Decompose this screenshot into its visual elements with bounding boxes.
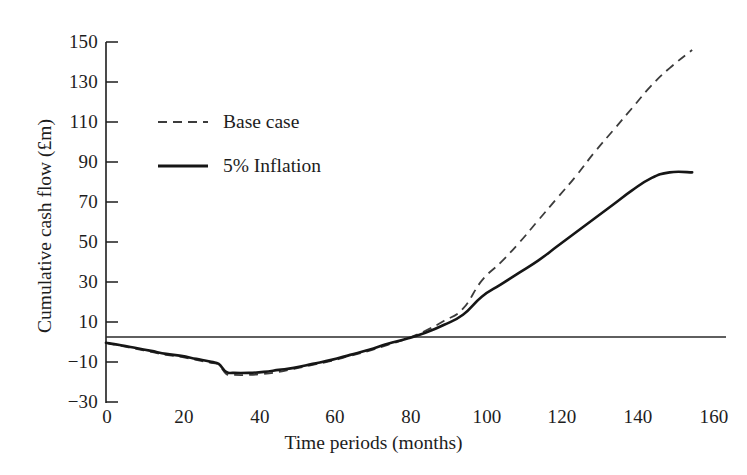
x-tick-label-40: 40 <box>250 406 269 428</box>
x-tick-label-20: 20 <box>174 406 193 428</box>
y-axis-ticks <box>106 42 118 402</box>
chart-plot-area <box>0 0 747 475</box>
y-tick-label-150: 150 <box>46 31 98 53</box>
y-tick-label-neg30: −30 <box>40 391 98 413</box>
legend-label-base-case: Base case <box>223 111 299 133</box>
x-tick-label-0: 0 <box>102 406 112 428</box>
series-line-inflation <box>106 172 692 373</box>
x-tick-label-120: 120 <box>547 406 576 428</box>
x-axis-label: Time periods (months) <box>0 432 747 454</box>
x-tick-label-100: 100 <box>472 406 501 428</box>
x-tick-label-60: 60 <box>325 406 344 428</box>
legend-label-inflation: 5% Inflation <box>223 155 321 177</box>
x-tick-label-80: 80 <box>401 406 420 428</box>
x-tick-label-160: 160 <box>699 406 728 428</box>
x-tick-label-140: 140 <box>623 406 652 428</box>
y-axis-label: Cumulative cash flow (£m) <box>34 61 56 391</box>
chart-figure: 150 130 110 90 70 50 30 10 −10 −30 0 20 … <box>0 0 747 475</box>
